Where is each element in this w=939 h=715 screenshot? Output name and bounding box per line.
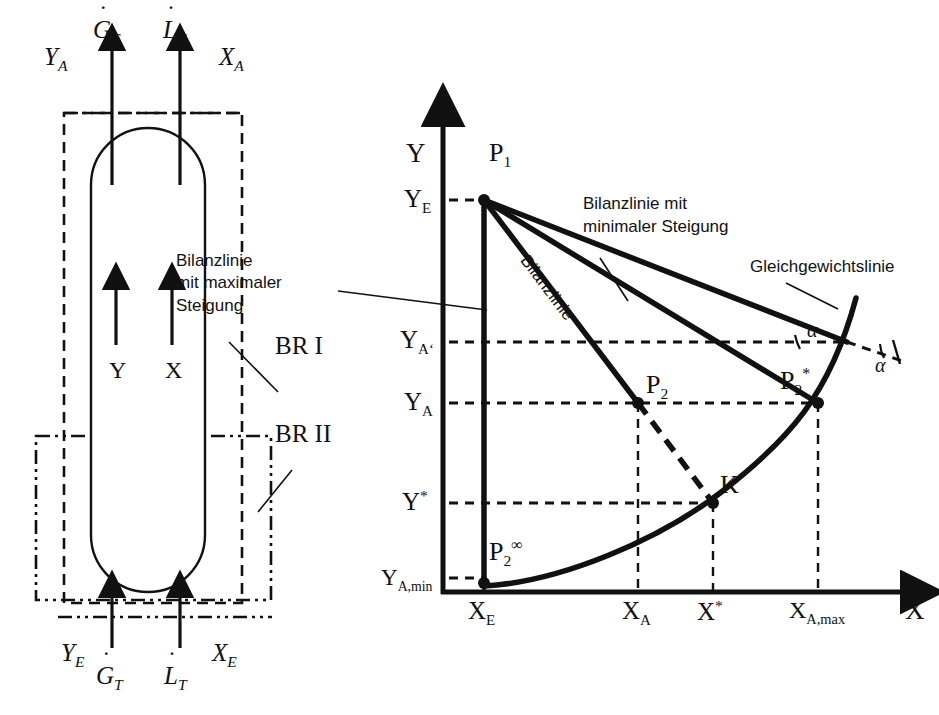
label-LT-bottom: LT <box>164 663 187 693</box>
y-tick-label-YAmin: YA,min <box>381 566 433 593</box>
point-P2-dot <box>632 397 644 409</box>
point-P2inf-dot <box>478 577 490 589</box>
label-GT-bottom: GT <box>96 663 123 693</box>
axis-title-x: X <box>905 597 925 624</box>
y-tick-label-YE: YE <box>404 186 431 216</box>
y-tick-label-YA: YA <box>404 389 433 419</box>
annotation-balance-line-min-slope: Bilanzlinie mit minimaler Steigung <box>583 193 729 239</box>
segment-P2-to-K <box>638 403 713 503</box>
leader-equilibrium <box>786 283 838 309</box>
leader-balance-min-slope <box>600 258 628 301</box>
label-balance-region-1: BR I <box>275 333 323 358</box>
point-P1-dot <box>478 194 490 206</box>
axis-title-y: Y <box>406 140 426 167</box>
label-XA-top: XA <box>219 44 244 74</box>
point-label-P1: P1 <box>489 140 511 170</box>
annotation-balance-line-max-slope: Bilanzlinie mit maximaler Steigung <box>176 250 282 317</box>
point-K-dot <box>707 497 719 509</box>
figure-root: YA GT LT XA Y X BR I BR II YE GT LT XE Y… <box>0 0 939 715</box>
x-tick-label-XA: XA <box>622 598 651 628</box>
angle-label-alpha-upper: α <box>807 320 818 340</box>
br2-leader-line <box>258 470 292 512</box>
label-LT-top: LT <box>163 17 186 47</box>
label-X-inside: X <box>165 358 182 382</box>
br1-leader-line <box>229 342 278 392</box>
x-tick-label-Xstar: X* <box>697 598 723 624</box>
leader-balance-max-slope <box>338 291 487 310</box>
point-label-P2star: P2* <box>780 366 810 397</box>
point-label-P2inf: P2∞ <box>489 537 523 568</box>
x-tick-label-XE: XE <box>468 598 495 628</box>
angle-label-alpha-lower: α <box>875 355 886 375</box>
point-label-K: K <box>720 472 739 498</box>
label-YA-top: YA <box>44 44 67 74</box>
point-P2star-dot <box>812 397 824 409</box>
label-YE-bottom: YE <box>61 640 84 670</box>
label-GT-top: GT <box>93 17 120 47</box>
label-XE-bottom: XE <box>212 640 237 670</box>
alpha-arc-upper <box>795 335 800 349</box>
column-schematic-group <box>36 48 292 648</box>
label-Y-inside: Y <box>109 358 126 382</box>
y-tick-label-YAprime: YA‘ <box>400 327 434 357</box>
y-tick-label-Ystar: Y* <box>402 488 428 514</box>
annotation-equilibrium-line: Gleichgewichtslinie <box>750 258 895 275</box>
label-balance-region-2: BR II <box>275 421 331 446</box>
point-label-P2: P2 <box>646 372 668 402</box>
x-tick-label-XAmax: XA,max <box>789 598 845 626</box>
